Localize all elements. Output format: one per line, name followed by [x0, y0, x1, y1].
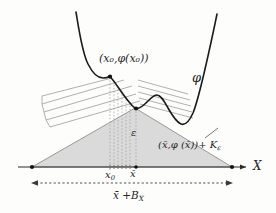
phi-curve: [76, 12, 217, 124]
label-width-expression: x̄ +BX: [113, 190, 144, 201]
label-cone-expression: (x̄,φ (x̄))+ Kε: [158, 140, 221, 150]
label-width-main: x̄ +B: [113, 189, 139, 201]
label-point-x0: (x₀,φ(x₀)): [99, 53, 149, 64]
label-phi-curve: φ: [192, 71, 201, 84]
point-triangle-left-vertex: [30, 165, 34, 169]
width-arrow-right: [226, 180, 233, 185]
diagram-svg: [0, 0, 276, 213]
label-tick-x0-subscript: 0: [111, 174, 115, 182]
label-axis-x: X: [253, 160, 262, 172]
point-x0-on-curve: [108, 74, 112, 78]
point-triangle-right-vertex: [230, 165, 234, 169]
label-tick-x0: x0: [105, 170, 115, 180]
label-tick-xbar: x̄: [130, 169, 136, 179]
width-arrow-left: [31, 180, 38, 185]
x-axis-arrowhead: [240, 165, 246, 170]
label-cone-main: (x̄,φ (x̄))+ K: [158, 139, 217, 150]
label-cone-subscript: ε: [217, 144, 221, 152]
label-epsilon: ε: [131, 128, 136, 138]
hatch-region-right: [138, 80, 193, 118]
label-width-subscript: X: [139, 194, 144, 203]
figure-canvas: (x₀,φ(x₀)) φ ε (x̄,φ (x̄))+ Kε x0 x̄ X x…: [0, 0, 276, 213]
point-xbar-on-curve: [134, 106, 138, 110]
cone-label-leader: [205, 128, 218, 138]
